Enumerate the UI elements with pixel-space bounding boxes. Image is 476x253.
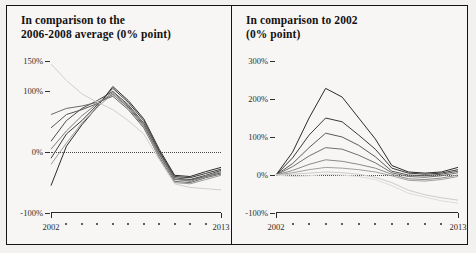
panel-right-title-line2: (0% point) (246, 28, 358, 42)
x-axis-tick (458, 213, 459, 218)
x-axis-minor-marker (308, 223, 310, 225)
x-axis-minor-marker (424, 223, 426, 225)
panel-left-title-line1: In comparison to the (21, 14, 125, 26)
series-lines (51, 61, 221, 213)
x-axis-tick-label: 2013 (213, 222, 230, 232)
x-axis-tick-label: 2013 (450, 222, 467, 232)
x-axis-minor-marker (358, 223, 360, 225)
plot-area-left: -100%0%100%150%20022013 (51, 61, 221, 213)
series-lines (276, 61, 458, 213)
x-axis-minor-marker (374, 223, 376, 225)
series-line (276, 133, 458, 176)
y-axis-tick-label: 100% (248, 132, 276, 142)
y-axis-tick-label: 0% (257, 170, 276, 180)
x-axis-minor-marker (325, 223, 327, 225)
panel-left-title-line2: 2006-2008 average (0% point) (21, 28, 171, 42)
x-axis-tick (51, 213, 52, 218)
series-line (51, 64, 221, 190)
panel-left-title: In comparison to the 2006-2008 average (… (21, 14, 171, 41)
x-axis-tick-label: 2002 (268, 222, 285, 232)
x-axis-minor-marker (65, 223, 67, 225)
series-line (51, 87, 221, 186)
x-axis-tick (221, 213, 222, 218)
x-axis-minor-marker (158, 223, 160, 225)
x-axis-minor-marker (391, 223, 393, 225)
series-line (51, 93, 221, 182)
series-line (51, 91, 221, 179)
panel-right-title: In comparison to 2002 (0% point) (246, 14, 358, 41)
y-axis-tick-label: 300% (248, 56, 276, 66)
x-axis-minor-marker (81, 223, 83, 225)
series-line (276, 88, 458, 175)
y-axis-tick-label: -100% (245, 208, 276, 218)
x-axis-minor-marker (407, 223, 409, 225)
x-axis-minor-marker (174, 223, 176, 225)
x-axis-tick (276, 213, 277, 218)
x-axis-tick-label: 2002 (43, 222, 60, 232)
y-axis-tick-label: 0% (32, 147, 51, 157)
plot-area-right: -100%0%100%200%300%20022013 (276, 61, 458, 213)
x-axis-minor-marker (440, 223, 442, 225)
panel-left: In comparison to the 2006-2008 average (… (7, 6, 231, 244)
x-axis-minor-marker (112, 223, 114, 225)
x-axis-minor-marker (205, 223, 207, 225)
x-axis-minor-marker (189, 223, 191, 225)
y-axis-tick-label: 200% (248, 94, 276, 104)
chart-figure: In comparison to the 2006-2008 average (… (0, 0, 476, 253)
panel-right: In comparison to 2002 (0% point) -100%0%… (232, 6, 468, 244)
panel-right-title-line1: In comparison to 2002 (246, 14, 358, 26)
x-axis-minor-marker (127, 223, 129, 225)
y-axis-tick-label: 150% (23, 56, 51, 66)
x-axis-minor-marker (292, 223, 294, 225)
x-axis-minor-marker (96, 223, 98, 225)
x-axis-minor-marker (341, 223, 343, 225)
y-axis-tick-label: -100% (20, 208, 51, 218)
x-axis-minor-marker (143, 223, 145, 225)
y-axis-tick-label: 100% (23, 86, 51, 96)
